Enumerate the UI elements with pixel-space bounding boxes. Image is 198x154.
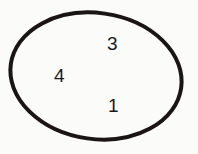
element-3: 3	[107, 33, 118, 54]
element-1: 1	[108, 95, 119, 116]
element-4: 4	[54, 65, 65, 86]
set-ellipse	[2, 2, 190, 151]
venn-set-diagram: 3 4 1	[0, 0, 198, 154]
